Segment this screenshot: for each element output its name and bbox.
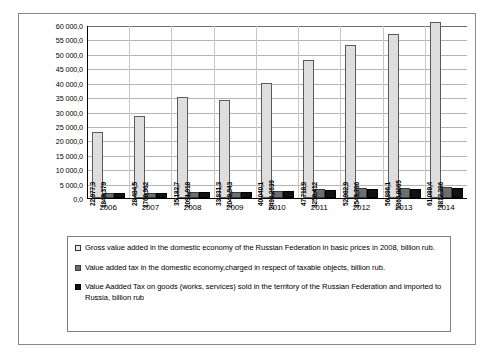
y-axis-tick: 45 000,0 — [25, 65, 83, 74]
bar-series-2: 1848,379 — [103, 193, 114, 198]
x-axis-tick: 2010 — [256, 203, 298, 219]
bar-series-1: 52 982,9 — [345, 45, 356, 198]
y-axis-tick: 10 000,0 — [25, 166, 83, 175]
bar-series-2: 3365,8065 — [399, 188, 410, 198]
plot-canvas: 22 977,31848,37928 484,51760,96235 182,7… — [87, 26, 467, 199]
y-axis-tick: 25 000,0 — [25, 122, 83, 131]
y-axis-tick: 55 000,0 — [25, 36, 83, 45]
bar-series-3 — [325, 190, 336, 198]
bar-series-3 — [241, 192, 252, 198]
bar-series-2: 2049,943 — [230, 192, 241, 198]
legend-entry-vat-goods: Value Aadded Tax on goods (works, servic… — [75, 282, 443, 303]
y-axis-tick: 20 000,0 — [25, 137, 83, 146]
bar-series-2: 2498,2639 — [272, 191, 283, 198]
bar-series-1: 56 896,1 — [388, 34, 399, 198]
x-axis-tick: 2011 — [298, 203, 340, 219]
y-axis-tick: 40 000,0 — [25, 79, 83, 88]
bar-series-2: 3250,412 — [314, 189, 325, 198]
bar-group: 22 977,31848,379 — [88, 26, 130, 198]
y-axis-tick: 30 000,0 — [25, 108, 83, 117]
bar-series-3 — [199, 192, 210, 198]
legend-label: Value added tax in the domestic economy,… — [85, 263, 385, 274]
y-axis-tick: 60 000,0 — [25, 22, 83, 31]
x-axis-tick: 2009 — [214, 203, 256, 219]
chart-plot-area: 60 000,055 000,050 000,045 000,040 000,0… — [19, 14, 477, 227]
bar-group: 52 982,93545,796 — [341, 26, 383, 198]
bar-series-2: 1760,962 — [145, 193, 156, 198]
bar-series-1: 61 089,4 — [430, 22, 441, 198]
bar-series-2: 3545,796 — [356, 188, 367, 198]
legend-swatch-dark-icon — [75, 265, 81, 271]
bar-group: 40 040,12498,2639 — [257, 26, 299, 198]
y-axis-tick: 35 000,0 — [25, 94, 83, 103]
legend-label: Value Aadded Tax on goods (works, servic… — [85, 282, 443, 303]
y-axis-tick: 50 000,0 — [25, 50, 83, 59]
bar-series-3 — [452, 188, 463, 198]
x-axis-tick: 2006 — [87, 203, 129, 219]
bar-group: 56 896,13365,8065 — [384, 26, 426, 198]
legend-entry-vat-domestic: Value added tax in the domestic economy,… — [75, 263, 443, 274]
y-axis-tick-labels: 60 000,055 000,050 000,045 000,040 000,0… — [21, 14, 83, 227]
y-axis-tick: 0,0 — [25, 195, 83, 204]
bar-groups: 22 977,31848,37928 484,51760,96235 182,7… — [88, 26, 467, 198]
bar-series-2: 3812,396 — [441, 187, 452, 198]
bar-series-2: 2091,918 — [188, 192, 199, 198]
chart-screenshot: 60 000,055 000,050 000,045 000,040 000,0… — [0, 0, 490, 363]
legend-swatch-light-icon — [75, 245, 81, 251]
x-axis-tick: 2012 — [340, 203, 382, 219]
bar-series-1: 47 718,9 — [303, 60, 314, 198]
legend-label: Gross value added in the domestic econom… — [85, 243, 435, 254]
x-axis-tick: 2008 — [171, 203, 213, 219]
legend-entry-gross-value-added: Gross value added in the domestic econom… — [75, 243, 443, 254]
x-axis-tick: 2013 — [383, 203, 425, 219]
x-axis-tick-labels: 200620072008200920102011201220132014 — [87, 203, 467, 219]
bar-series-3 — [283, 191, 294, 198]
legend-swatch-black-icon — [75, 284, 81, 290]
bar-series-3 — [114, 193, 125, 198]
bar-group: 47 718,93250,412 — [299, 26, 341, 198]
chart-legend: Gross value added in the domestic econom… — [67, 236, 451, 332]
bar-group: 61 089,43812,396 — [426, 26, 467, 198]
chart-outer-frame: 60 000,055 000,050 000,045 000,040 000,0… — [18, 13, 476, 345]
bar-series-3 — [410, 189, 421, 198]
x-axis-tick: 2007 — [129, 203, 171, 219]
y-axis-tick: 15 000,0 — [25, 151, 83, 160]
bar-group: 35 182,72091,918 — [172, 26, 214, 198]
y-axis-tick: 5 000,0 — [25, 180, 83, 189]
bar-group: 28 484,51760,962 — [130, 26, 172, 198]
bar-series-3 — [156, 193, 167, 198]
bar-series-3 — [367, 189, 378, 198]
x-axis-tick: 2014 — [425, 203, 467, 219]
bar-group: 33 831,32049,943 — [215, 26, 257, 198]
